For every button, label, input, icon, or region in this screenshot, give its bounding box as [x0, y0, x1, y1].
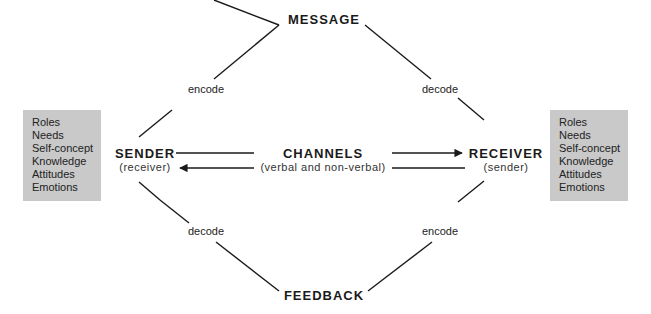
attribute-item: Attitudes	[559, 168, 628, 181]
attribute-item: Needs	[559, 129, 628, 142]
attribute-item: Attitudes	[32, 168, 101, 181]
receiver-sublabel: (sender)	[468, 161, 544, 173]
attribute-item: Roles	[559, 116, 628, 129]
channels-sublabel: (verbal and non-verbal)	[254, 161, 392, 173]
sender-node: SENDER (receiver)	[110, 146, 180, 173]
line-encode-message	[214, 0, 279, 25]
channels-label: CHANNELS	[254, 146, 392, 161]
attribute-item: Knowledge	[559, 155, 628, 168]
attribute-item: Emotions	[32, 181, 101, 194]
feedback-node: FEEDBACK	[280, 288, 368, 303]
line-sender-encode-lower	[139, 110, 172, 137]
attribute-item: Knowledge	[32, 155, 101, 168]
message-label: MESSAGE	[280, 12, 368, 27]
sender-sublabel: (receiver)	[110, 161, 180, 173]
attribute-item: Needs	[32, 129, 101, 142]
receiver-label: RECEIVER	[468, 146, 544, 161]
sender-attributes-box: Roles Needs Self-concept Knowledge Attit…	[23, 110, 101, 201]
receiver-node: RECEIVER (sender)	[468, 146, 544, 173]
sender-label: SENDER	[110, 146, 180, 161]
attribute-item: Emotions	[559, 181, 628, 194]
feedback-label: FEEDBACK	[280, 288, 368, 303]
channels-node: CHANNELS (verbal and non-verbal)	[254, 146, 392, 173]
attribute-item: Self-concept	[559, 142, 628, 155]
attribute-item: Self-concept	[32, 142, 101, 155]
receiver-attributes-box: Roles Needs Self-concept Knowledge Attit…	[550, 110, 628, 201]
edge-label-encode-top: encode	[188, 83, 224, 95]
edge-label-decode-bottom: decode	[188, 225, 224, 237]
message-node: MESSAGE	[280, 12, 368, 27]
edge-label-encode-bottom: encode	[422, 225, 458, 237]
attribute-item: Roles	[32, 116, 101, 129]
edge-label-decode-top: decode	[422, 83, 458, 95]
